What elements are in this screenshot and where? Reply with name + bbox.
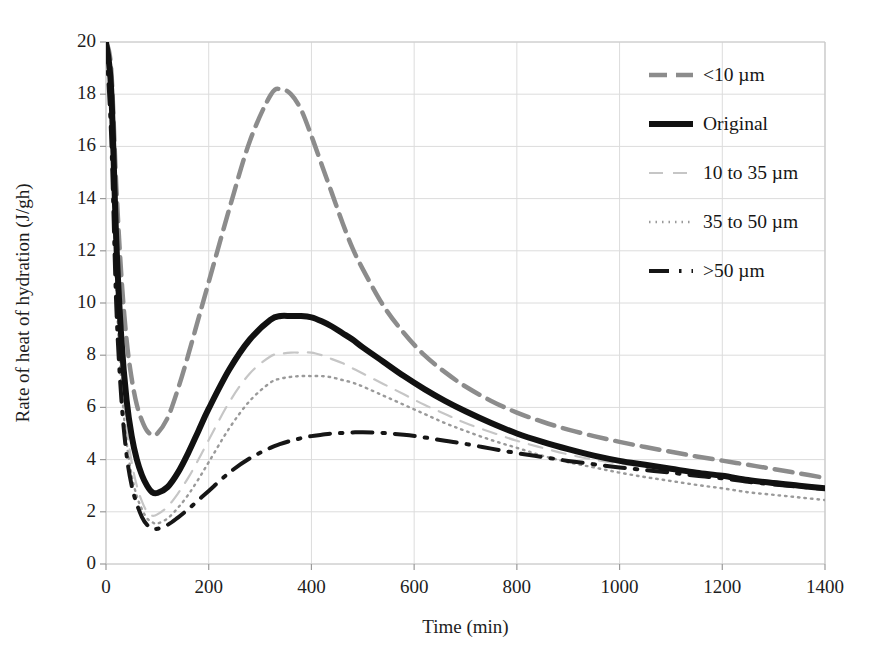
legend-line-swatch [648,66,694,84]
legend-line-swatch [648,213,694,231]
y-tick-label: 2 [42,500,96,522]
chart-legend: <10 µmOriginal10 to 35 µm35 to 50 µm>50 … [648,50,863,295]
y-tick-label: 14 [42,187,96,209]
legend-line-swatch [648,262,694,280]
legend-item[interactable]: 10 to 35 µm [648,148,863,197]
legend-line-swatch [648,115,694,133]
x-tick-label: 800 [477,576,557,598]
x-tick-label: 1400 [785,576,865,598]
legend-item-label: Original [703,113,768,135]
legend-item-label: 10 to 35 µm [703,162,798,184]
y-tick-label: 18 [42,82,96,104]
legend-item[interactable]: <10 µm [648,50,863,99]
chart-figure: Rate of heat of hydration (J/gh) Time (m… [0,0,885,660]
y-tick-label: 16 [42,134,96,156]
x-tick-label: 0 [66,576,146,598]
legend-item-label: <10 µm [703,64,765,86]
y-axis-title: Rate of heat of hydration (J/gh) [12,183,34,422]
x-tick-label: 1000 [580,576,660,598]
x-tick-label: 400 [271,576,351,598]
y-tick-label: 8 [42,343,96,365]
legend-line-swatch [648,164,694,182]
y-tick-label: 6 [42,395,96,417]
x-tick-label: 1200 [682,576,762,598]
y-tick-label: 0 [42,552,96,574]
x-tick-label: 600 [374,576,454,598]
x-axis-title: Time (min) [386,616,546,638]
legend-item[interactable]: >50 µm [648,246,863,295]
legend-item-label: >50 µm [703,260,765,282]
y-tick-label: 4 [42,448,96,470]
legend-item-label: 35 to 50 µm [703,211,798,233]
y-tick-label: 10 [42,291,96,313]
y-tick-label: 20 [42,30,96,52]
x-tick-label: 200 [169,576,249,598]
legend-item[interactable]: 35 to 50 µm [648,197,863,246]
legend-item[interactable]: Original [648,99,863,148]
y-tick-label: 12 [42,239,96,261]
